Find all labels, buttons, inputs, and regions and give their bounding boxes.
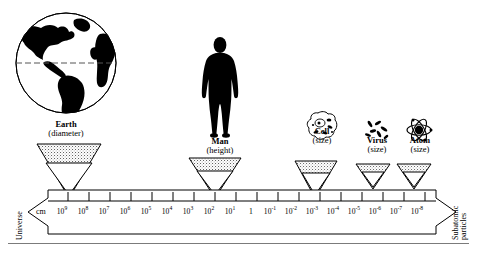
object-label-cell: Cell (size) xyxy=(292,127,352,144)
object-sub-man: (height) xyxy=(180,146,260,155)
subatomic-line-2: particles xyxy=(459,213,468,240)
object-sub-virus: (size) xyxy=(353,145,401,154)
object-sub-cell: (size) xyxy=(292,136,352,145)
object-label-atom: Atom (size) xyxy=(396,136,444,153)
axis-end-label-universe: Universe xyxy=(16,211,24,240)
scale-of-universe-figure: Earth (diameter) Man (height) xyxy=(0,0,477,255)
human-silhouette-icon xyxy=(188,36,252,138)
object-sub-atom: (size) xyxy=(396,145,444,154)
object-sub-earth: (diameter) xyxy=(16,129,116,138)
unit-label-cm: cm xyxy=(36,207,46,216)
object-label-virus: Virus (size) xyxy=(353,136,401,153)
axis-end-label-subatomic: Subatomic particles xyxy=(452,206,469,240)
object-label-earth: Earth (diameter) xyxy=(16,120,116,137)
tick-label-17: 10-8 xyxy=(403,207,431,216)
globe-icon xyxy=(12,8,120,120)
figure-bottom-rule xyxy=(8,243,469,244)
object-label-man: Man (height) xyxy=(180,137,260,154)
